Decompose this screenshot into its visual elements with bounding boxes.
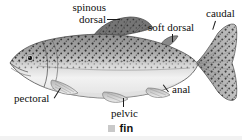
leader-soft-dorsal: [172, 34, 173, 42]
label-pectoral-text: pectoral: [14, 92, 49, 104]
label-pectoral: pectoral: [14, 93, 49, 105]
caudal-fin-shape: [190, 18, 242, 106]
label-soft-dorsal: soft dorsal: [148, 22, 194, 34]
label-pelvic-text: pelvic: [111, 107, 138, 119]
label-pelvic: pelvic: [111, 108, 138, 120]
label-spinous-dorsal-line1: spinous: [72, 1, 106, 13]
legend-swatch-fin: [108, 125, 115, 132]
figure-container: spinous dorsal soft dorsal caudal pector…: [0, 0, 242, 140]
label-spinous-dorsal-line2: dorsal: [79, 13, 106, 25]
leader-pelvic: [123, 98, 124, 107]
legend: fin: [0, 120, 242, 136]
label-caudal-text: caudal: [206, 7, 235, 19]
leader-spinous-dorsal: [107, 19, 120, 20]
legend-label-fin: fin: [119, 122, 133, 134]
label-caudal: caudal: [206, 8, 235, 20]
label-spinous-dorsal: spinous dorsal: [56, 2, 106, 25]
label-soft-dorsal-text: soft dorsal: [148, 21, 194, 33]
footer-band: [0, 136, 242, 140]
label-anal-text: anal: [172, 83, 190, 95]
label-anal: anal: [172, 84, 190, 96]
